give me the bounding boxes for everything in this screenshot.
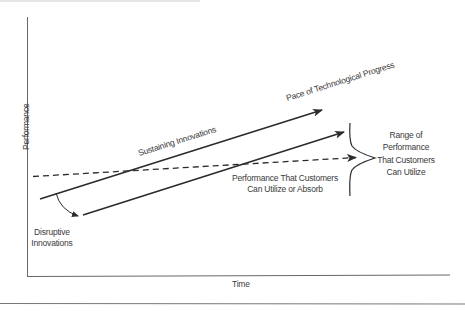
disruption-curved-arrow [56, 193, 78, 216]
x-axis-label: Time [232, 279, 250, 290]
customer-performance-label-line2: Can Utilize or Absorb [230, 184, 340, 195]
bottom-separator [0, 304, 465, 305]
range-label-line1: Range of [370, 129, 442, 141]
disruptive-innovations-label-line1: Disruptive [27, 227, 77, 238]
customer-performance-label-line1: Performance That Customers [230, 173, 340, 184]
customer-performance-label: Performance That Customers Can Utilize o… [230, 173, 340, 194]
range-of-performance-label: Range of Performance That Customers Can … [370, 129, 442, 178]
x-axis [27, 275, 450, 277]
y-axis-label: Performance [21, 104, 32, 150]
disruptive-innovations-label-line2: Innovations [27, 238, 77, 249]
disruptive-innovations-label: Disruptive Innovations [27, 227, 77, 248]
range-label-line3: That Customers [370, 154, 442, 166]
range-label-line4: Can Utilize [370, 166, 442, 178]
range-label-line2: Performance [370, 141, 442, 153]
